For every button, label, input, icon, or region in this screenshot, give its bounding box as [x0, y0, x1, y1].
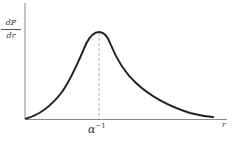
y-axis-label: dP dr [1, 18, 21, 41]
distribution-plot [0, 0, 236, 141]
y-axis-label-numerator: dP [1, 18, 21, 30]
y-axis-label-denominator: dr [1, 30, 21, 41]
peak-label: α−1 [88, 122, 106, 136]
distribution-curve [26, 32, 213, 119]
x-axis-label: r [222, 120, 226, 129]
peak-label-exponent: −1 [95, 122, 105, 130]
